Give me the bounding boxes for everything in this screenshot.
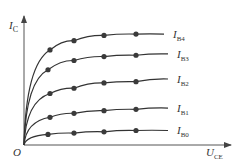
data-point-marker: [133, 32, 138, 37]
data-point-marker: [133, 128, 138, 133]
data-point-marker: [101, 80, 106, 85]
data-point-marker: [47, 91, 52, 96]
curve-i-b0: [24, 130, 168, 145]
curve-i-b4: [24, 34, 164, 145]
curve-i-b1: [24, 108, 168, 145]
data-point-marker: [101, 33, 106, 38]
output-characteristic-chart: IB4IB3IB2IB1IB0 IC UCE O: [0, 0, 241, 161]
series-label-i-b3: IB3: [176, 48, 189, 63]
data-point-marker: [133, 79, 138, 84]
data-point-marker: [47, 47, 52, 52]
data-point-marker: [45, 67, 50, 72]
origin-label: O: [13, 146, 21, 158]
data-point-marker: [101, 54, 106, 59]
data-point-marker: [71, 38, 76, 43]
series-label-group: IB4IB3IB2IB1IB0: [172, 28, 189, 139]
x-axis-label: UCE: [206, 146, 223, 161]
series-label-i-b2: IB2: [176, 73, 189, 88]
y-axis-label: IC: [8, 19, 18, 34]
series-label-i-b0: IB0: [176, 124, 189, 139]
data-point-marker: [45, 132, 50, 137]
data-point-marker: [71, 58, 76, 63]
series-label-i-b1: IB1: [176, 102, 189, 117]
data-point-marker: [101, 129, 106, 134]
data-point-marker: [133, 53, 138, 58]
series-label-i-b4: IB4: [172, 28, 185, 43]
data-point-marker: [71, 86, 76, 91]
curve-group: [24, 32, 168, 145]
data-point-marker: [133, 107, 138, 112]
data-point-marker: [71, 131, 76, 136]
data-point-marker: [47, 115, 52, 120]
data-point-marker: [71, 111, 76, 116]
data-point-marker: [101, 108, 106, 113]
